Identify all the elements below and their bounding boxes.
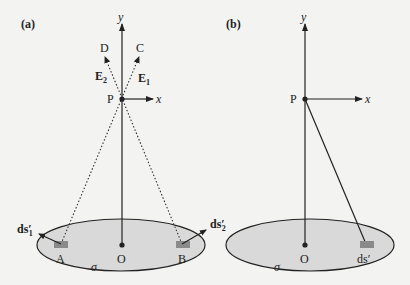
point-o-label-a: O xyxy=(117,252,126,266)
y-axis-label-b: y xyxy=(300,10,307,24)
field-e2-label: E2 xyxy=(95,69,107,85)
x-axis-label-b: x xyxy=(364,92,371,106)
point-b-label: B xyxy=(178,252,186,266)
point-o-label-b: O xyxy=(300,252,309,266)
point-d-label: D xyxy=(100,41,109,55)
element-ds2-label: ds′2 xyxy=(210,217,226,233)
panel-a: (a) y x P O C D E1 E2 A B σ ds xyxy=(17,10,226,274)
figure-canvas: (a) y x P O C D E1 E2 A B σ ds xyxy=(0,0,410,285)
element-ds-label: ds′ xyxy=(357,252,371,266)
panel-b: (b) y x P O ds′ σ xyxy=(226,10,394,274)
diagram-svg: (a) y x P O C D E1 E2 A B σ ds xyxy=(0,0,410,285)
panel-a-label: (a) xyxy=(21,17,35,31)
surface-element-ds xyxy=(360,241,374,248)
point-p-a xyxy=(119,96,124,101)
point-o-b xyxy=(302,242,307,247)
surface-element-b xyxy=(176,241,190,248)
point-a-label: A xyxy=(56,252,65,266)
point-p-b xyxy=(302,96,307,101)
field-line-b-to-d xyxy=(105,57,182,244)
x-axis-label-a: x xyxy=(155,92,162,106)
element-ds1-label: ds′1 xyxy=(17,222,33,238)
point-o-a xyxy=(119,242,124,247)
point-p-label-a: P xyxy=(107,92,114,106)
panel-b-label: (b) xyxy=(226,17,241,31)
point-c-label: C xyxy=(136,41,144,55)
field-e1-label: E1 xyxy=(138,71,150,87)
point-p-label-b: P xyxy=(290,92,297,106)
y-axis-label-a: y xyxy=(117,10,124,24)
field-line-a-to-c xyxy=(61,57,139,244)
